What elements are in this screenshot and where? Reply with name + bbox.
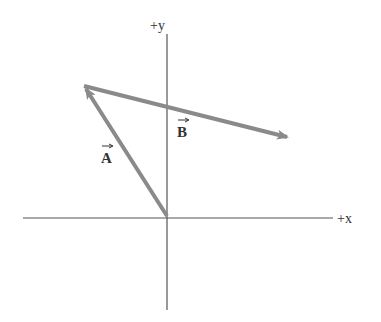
- y-axis-label: +y: [150, 18, 165, 33]
- vector-a-arrow: [86, 89, 167, 216]
- svg-text:B: B: [177, 124, 187, 140]
- vector-b-label: B: [177, 118, 189, 140]
- svg-text:A: A: [101, 150, 112, 166]
- vector-diagram: +x +y A B: [0, 0, 381, 322]
- x-axis-label: +x: [337, 211, 352, 226]
- vector-a-label: A: [101, 144, 113, 166]
